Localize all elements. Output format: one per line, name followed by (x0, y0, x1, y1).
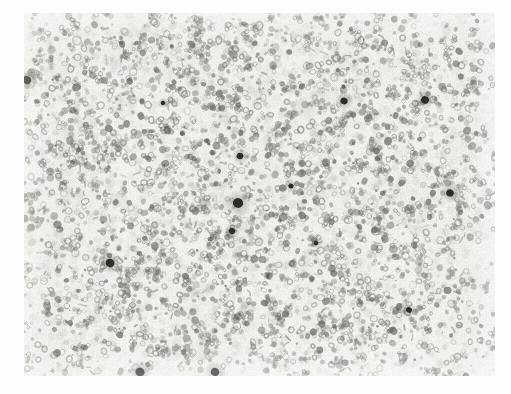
page-root (0, 0, 511, 394)
histology-photomicrograph (24, 13, 495, 376)
micrograph-image (24, 13, 495, 376)
